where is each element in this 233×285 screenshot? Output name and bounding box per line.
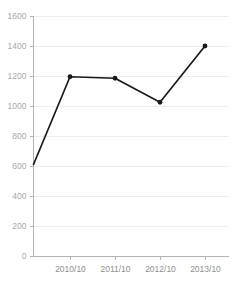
y-axis-tick-labels: 02004006008001000120014001600 bbox=[8, 11, 27, 261]
series-markers bbox=[68, 44, 208, 105]
x-tick-label: 2013/10 bbox=[190, 264, 221, 274]
x-tick-label: 2010/10 bbox=[55, 264, 86, 274]
y-tick-label: 800 bbox=[12, 131, 26, 141]
y-tick-label: 1600 bbox=[8, 11, 27, 21]
gridlines bbox=[34, 17, 230, 227]
data-point bbox=[158, 100, 163, 105]
x-tick-label: 2012/10 bbox=[145, 264, 176, 274]
chart-plot-area: 02004006008001000120014001600 2010/10201… bbox=[0, 0, 233, 285]
line-chart: 02004006008001000120014001600 2010/10201… bbox=[0, 0, 233, 285]
data-point bbox=[68, 74, 73, 79]
y-tick-label: 200 bbox=[12, 221, 26, 231]
y-axis-tick-marks bbox=[30, 17, 34, 257]
y-tick-label: 1200 bbox=[8, 71, 27, 81]
y-tick-label: 1400 bbox=[8, 41, 27, 51]
data-point bbox=[203, 44, 208, 49]
series-line bbox=[34, 46, 206, 165]
data-point bbox=[113, 76, 118, 81]
data-series bbox=[34, 44, 208, 165]
y-tick-label: 600 bbox=[12, 161, 26, 171]
y-tick-label: 0 bbox=[22, 251, 27, 261]
x-tick-label: 2011/10 bbox=[100, 264, 130, 274]
y-tick-label: 400 bbox=[12, 191, 26, 201]
x-axis-tick-labels: 2010/102011/102012/102013/10 bbox=[55, 264, 221, 274]
y-tick-label: 1000 bbox=[8, 101, 27, 111]
